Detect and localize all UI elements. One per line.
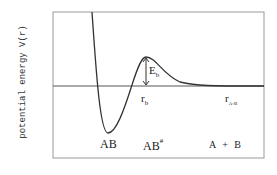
separated-state-label: A + B [209, 139, 241, 150]
transition-state-label: AB# [143, 137, 163, 154]
separation-label: rA-B [225, 92, 237, 106]
potential-curve [92, 12, 264, 133]
barrier-energy-label: Eb [149, 64, 159, 79]
bound-state-label: AB [100, 137, 117, 152]
y-axis-label: potential energy V(r) [18, 7, 28, 157]
barrier-position-label: rb [141, 92, 148, 107]
